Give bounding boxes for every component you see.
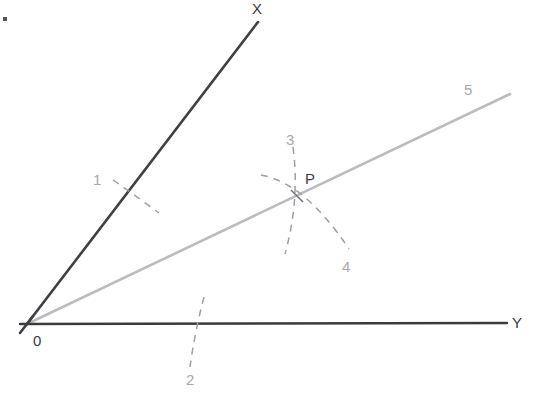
arc-2 [190,297,204,367]
geometry-figure: X Y 0 P 1 2 3 4 5 [0,0,533,393]
construction-canvas: X Y 0 P 1 2 3 4 5 [0,0,533,393]
scan-speck [3,17,7,21]
bisector-ray [27,94,510,324]
label-p: P [305,170,315,187]
label-y: Y [512,314,522,331]
ray-ox [27,22,258,324]
label-step-1: 1 [93,171,101,188]
label-step-2: 2 [186,371,194,388]
label-step-3: 3 [286,131,294,148]
label-step-5: 5 [464,81,472,98]
label-step-4: 4 [342,258,350,275]
arc-1-leader [113,180,159,213]
label-origin: 0 [33,332,41,349]
ray-oy [20,323,507,324]
label-x: X [252,0,262,17]
